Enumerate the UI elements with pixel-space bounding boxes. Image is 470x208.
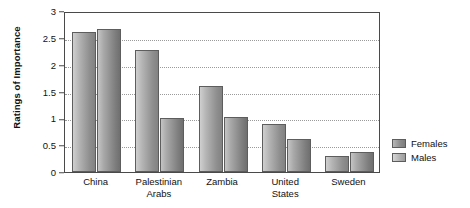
y-tick: 0.5 — [43, 141, 64, 151]
y-tick-label: 2 — [51, 61, 59, 71]
legend-label: Females — [411, 139, 447, 149]
x-axis-label: China — [83, 176, 108, 188]
y-tick: 2.5 — [43, 34, 64, 44]
bar-chart: Ratings of Importance 00.511.522.53 Chin… — [0, 0, 470, 208]
bar-group — [262, 13, 311, 172]
x-axis-label: Sweden — [331, 176, 365, 188]
y-tick-label: 1 — [51, 115, 59, 125]
y-tick-label: 1.5 — [43, 88, 59, 98]
y-tick: 0 — [51, 168, 64, 178]
y-tick: 1.5 — [43, 88, 64, 98]
legend: FemalesMales — [392, 139, 447, 162]
y-tick: 2 — [51, 61, 64, 71]
bar-females — [262, 124, 286, 172]
legend-swatch-females — [392, 139, 406, 148]
bar-females — [72, 32, 96, 172]
x-axis-label: United States — [271, 176, 298, 199]
bar-groups — [65, 13, 379, 172]
plot-area — [64, 12, 380, 173]
bar-females — [325, 156, 349, 172]
y-axis-ticks: 00.511.522.53 — [0, 12, 64, 173]
legend-swatch-males — [392, 153, 406, 162]
y-tick-label: 3 — [51, 7, 59, 17]
bar-males — [350, 152, 374, 172]
bar-males — [224, 117, 248, 172]
legend-item[interactable]: Males — [392, 153, 447, 163]
x-axis-label: Zambia — [206, 176, 238, 188]
bar-males — [97, 29, 121, 172]
bar-group — [199, 13, 248, 172]
bar-group — [135, 13, 184, 172]
y-tick: 3 — [51, 7, 64, 17]
legend-label: Males — [411, 153, 436, 163]
bar-males — [160, 118, 184, 172]
legend-item[interactable]: Females — [392, 139, 447, 149]
bar-group — [325, 13, 374, 172]
bar-males — [287, 139, 311, 172]
bar-females — [199, 86, 223, 172]
x-axis-label: Palestinian Arabs — [136, 176, 182, 199]
y-tick-label: 0 — [51, 168, 59, 178]
y-tick-label: 2.5 — [43, 34, 59, 44]
x-axis-labels: ChinaPalestinian ArabsZambiaUnited State… — [64, 176, 380, 206]
y-tick-label: 0.5 — [43, 141, 59, 151]
y-tick: 1 — [51, 115, 64, 125]
bar-group — [72, 13, 121, 172]
bar-females — [135, 50, 159, 172]
